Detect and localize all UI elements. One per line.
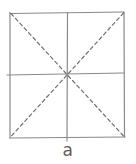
vertical-midline [67, 13, 68, 142]
square-right-edge [124, 12, 125, 137]
crease-pattern-canvas [0, 0, 136, 150]
origami-crease-diagram: a [0, 0, 136, 164]
figure-label: a [0, 140, 136, 160]
